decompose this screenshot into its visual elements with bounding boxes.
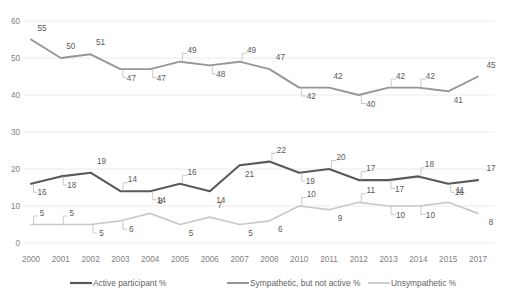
data-label-active-2011: 20 bbox=[336, 153, 346, 162]
x-tick-2013: 2013 bbox=[379, 255, 398, 264]
x-axis-tick-labels: 2000200120022003200420052006200720082010… bbox=[22, 255, 488, 264]
series-line-active-participant bbox=[31, 162, 478, 192]
x-tick-2014: 2014 bbox=[409, 255, 428, 264]
data-label-sympathetic-2008: 47 bbox=[276, 53, 286, 62]
x-tick-2007: 2007 bbox=[230, 255, 249, 264]
data-label-active-2002: 19 bbox=[97, 157, 107, 166]
data-label-unsympathetic-2004: 8 bbox=[158, 197, 163, 206]
data-label-active-2000: 16 bbox=[37, 188, 47, 197]
y-axis-tick-labels: 0102030405060 bbox=[11, 17, 21, 248]
legend-label-0: Active participant % bbox=[93, 278, 167, 288]
data-label-sympathetic-2012: 40 bbox=[366, 100, 376, 109]
data-label-unsympathetic-2015: 11 bbox=[456, 186, 465, 195]
label-leader-unsympathetic-2002 bbox=[93, 225, 97, 234]
data-label-sympathetic-2001: 50 bbox=[66, 42, 76, 51]
legend-label-1: Sympathetic, but not active % bbox=[250, 278, 361, 288]
y-tick-0: 0 bbox=[15, 239, 20, 248]
data-label-sympathetic-2017: 45 bbox=[486, 61, 496, 70]
x-tick-2004: 2004 bbox=[141, 255, 160, 264]
data-label-active-2003: 14 bbox=[128, 175, 138, 184]
label-leader-unsympathetic-2000 bbox=[34, 216, 38, 225]
x-tick-2015: 2015 bbox=[439, 255, 458, 264]
data-label-unsympathetic-2003: 6 bbox=[129, 225, 134, 234]
chart-legend: Active participant %Sympathetic, but not… bbox=[70, 278, 457, 288]
data-label-unsympathetic-2008: 6 bbox=[278, 225, 283, 234]
y-tick-50: 50 bbox=[11, 54, 21, 63]
label-leader-unsympathetic-2012 bbox=[361, 194, 366, 203]
data-label-unsympathetic-2006: 7 bbox=[218, 201, 223, 210]
data-label-unsympathetic-2014: 10 bbox=[426, 211, 436, 220]
data-label-unsympathetic-2005: 5 bbox=[189, 229, 194, 238]
data-label-sympathetic-2007: 49 bbox=[247, 46, 257, 55]
data-label-sympathetic-2006: 48 bbox=[216, 70, 226, 79]
data-label-sympathetic-2002: 51 bbox=[96, 38, 106, 47]
legend-label-2: Unsympathetic % bbox=[391, 278, 457, 288]
data-label-unsympathetic-2001: 5 bbox=[70, 209, 75, 218]
x-tick-2010: 2010 bbox=[290, 255, 309, 264]
data-label-unsympathetic-2013: 10 bbox=[396, 211, 406, 220]
data-label-active-2001: 18 bbox=[67, 181, 77, 190]
data-label-sympathetic-2015: 41 bbox=[454, 96, 464, 105]
data-label-active-2014: 18 bbox=[425, 160, 435, 169]
data-label-unsympathetic-2010: 10 bbox=[307, 190, 317, 199]
data-label-sympathetic-2005: 49 bbox=[187, 46, 197, 55]
data-label-sympathetic-2003: 47 bbox=[127, 74, 137, 83]
x-tick-2006: 2006 bbox=[201, 255, 220, 264]
y-tick-40: 40 bbox=[11, 91, 21, 100]
data-label-unsympathetic-2017: 8 bbox=[489, 218, 494, 227]
data-label-active-2013: 17 bbox=[395, 185, 405, 194]
data-label-sympathetic-2010: 42 bbox=[307, 92, 317, 101]
label-leader-unsympathetic-2001 bbox=[63, 216, 67, 225]
data-label-active-2017: 17 bbox=[486, 164, 496, 173]
data-label-active-2005: 16 bbox=[187, 168, 197, 177]
y-tick-10: 10 bbox=[11, 202, 21, 211]
data-label-sympathetic-2013: 42 bbox=[396, 72, 406, 81]
x-tick-2012: 2012 bbox=[350, 255, 369, 264]
chart-plot-area: 0102030405060 20002001200220032004200520… bbox=[0, 0, 509, 300]
data-label-unsympathetic-2011: 9 bbox=[338, 214, 343, 223]
x-tick-2001: 2001 bbox=[52, 255, 71, 264]
data-label-sympathetic-2000: 55 bbox=[37, 24, 47, 33]
y-tick-60: 60 bbox=[11, 17, 21, 26]
x-tick-2002: 2002 bbox=[81, 255, 100, 264]
gridlines bbox=[24, 21, 495, 243]
data-label-unsympathetic-2000: 5 bbox=[40, 209, 45, 218]
data-label-active-2007: 21 bbox=[245, 170, 255, 179]
data-label-sympathetic-2011: 42 bbox=[333, 72, 343, 81]
data-label-unsympathetic-2012: 11 bbox=[367, 186, 376, 195]
line-chart: 0102030405060 20002001200220032004200520… bbox=[0, 0, 509, 300]
y-tick-20: 20 bbox=[11, 165, 21, 174]
x-tick-2003: 2003 bbox=[111, 255, 130, 264]
data-label-active-2012: 17 bbox=[366, 164, 376, 173]
x-tick-2000: 2000 bbox=[22, 255, 41, 264]
data-label-unsympathetic-2002: 5 bbox=[99, 229, 104, 238]
data-label-active-2010: 19 bbox=[306, 177, 316, 186]
x-tick-2017: 2017 bbox=[469, 255, 488, 264]
data-label-sympathetic-2014: 42 bbox=[426, 72, 436, 81]
x-tick-2005: 2005 bbox=[171, 255, 190, 264]
x-tick-2008: 2008 bbox=[260, 255, 279, 264]
x-tick-2011: 2011 bbox=[320, 255, 338, 264]
y-tick-30: 30 bbox=[11, 128, 21, 137]
label-leader-unsympathetic-2003 bbox=[123, 221, 127, 230]
data-label-sympathetic-2004: 47 bbox=[157, 74, 167, 83]
data-label-unsympathetic-2007: 5 bbox=[248, 229, 253, 238]
data-label-active-2008: 22 bbox=[277, 146, 287, 155]
